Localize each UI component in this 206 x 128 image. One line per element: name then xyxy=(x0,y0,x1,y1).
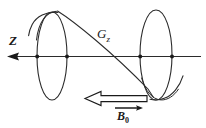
gradient-label-subscript: z xyxy=(106,34,110,44)
axis-dot xyxy=(170,55,174,59)
precession-circle-right-group xyxy=(140,10,183,100)
b0-label-base: B xyxy=(117,109,125,123)
magnetization-helix-line xyxy=(58,11,154,98)
b0-label-subscript: 0 xyxy=(125,116,129,125)
axis-dot xyxy=(138,55,142,59)
z-axis-label: Z xyxy=(9,34,17,47)
magnetization-helix-group xyxy=(37,11,154,98)
magnetization-helix-crest-left xyxy=(37,11,57,40)
gradient-label: Gz xyxy=(97,27,110,44)
precession-left-tail-curve xyxy=(29,12,58,35)
axis-dot xyxy=(65,55,69,59)
hollow-arrow-outline xyxy=(85,92,147,106)
gradient-label-base: G xyxy=(97,26,106,41)
physics-diagram-figure: Z Gz B0 xyxy=(0,0,206,128)
diagram-canvas xyxy=(0,0,206,128)
axis-dot xyxy=(35,55,39,59)
b0-field-label: B0 xyxy=(117,110,129,125)
z-axis-arrowhead-icon xyxy=(7,53,19,61)
b0-field-direction-hollow-arrow-left xyxy=(85,92,147,106)
